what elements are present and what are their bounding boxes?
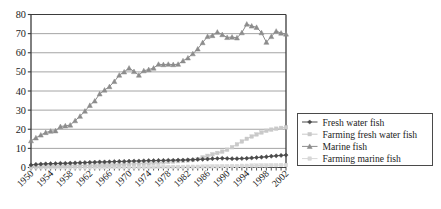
data-point-marker — [201, 165, 205, 169]
legend-label: Marine fish — [323, 141, 368, 152]
data-point-marker — [225, 148, 229, 152]
data-point-marker — [240, 164, 244, 168]
data-point-marker — [191, 165, 195, 169]
line-chart: 01020304050607080 1950195419581962196619… — [0, 0, 441, 209]
chart-legend: Fresh water fishFarming fresh water fish… — [298, 114, 433, 166]
data-point-marker — [206, 165, 210, 169]
data-point-marker — [235, 164, 239, 168]
data-point-marker — [196, 165, 200, 169]
data-point-marker — [250, 135, 254, 139]
y-axis-tick-label: 50 — [16, 66, 26, 77]
data-point-marker — [279, 163, 283, 167]
data-point-marker — [230, 145, 234, 149]
y-axis-tick-label: 10 — [16, 143, 26, 154]
data-point-marker — [181, 165, 185, 169]
data-point-marker — [255, 133, 259, 137]
y-axis-tick-label: 80 — [16, 9, 26, 20]
y-axis-tick-label: 30 — [16, 105, 26, 116]
data-point-marker — [137, 165, 141, 169]
data-point-marker — [167, 165, 171, 169]
data-point-marker — [220, 150, 224, 154]
data-point-marker — [220, 164, 224, 168]
data-point-marker — [255, 164, 259, 168]
data-point-marker — [157, 165, 161, 169]
y-axis-tick-label: 60 — [16, 47, 26, 58]
data-point-marker — [186, 165, 190, 169]
data-point-marker — [269, 128, 273, 132]
y-axis-tick-label: 70 — [16, 28, 26, 39]
y-axis-tick-label: 20 — [16, 124, 26, 135]
data-point-marker — [152, 165, 156, 169]
data-point-marker — [245, 164, 249, 168]
data-point-marker — [216, 165, 220, 169]
legend-label: Farming fresh water fish — [323, 129, 418, 140]
chart-container: 01020304050607080 1950195419581962196619… — [0, 0, 441, 209]
data-point-marker — [274, 127, 278, 131]
y-axis-tick-label: 40 — [16, 86, 26, 97]
data-point-marker — [284, 126, 288, 130]
legend-label: Farming marine fish — [323, 153, 402, 164]
data-point-marker — [176, 165, 180, 169]
data-point-marker — [265, 164, 269, 168]
data-point-marker — [274, 163, 278, 167]
data-point-marker — [245, 137, 249, 141]
data-point-marker — [308, 157, 312, 161]
data-point-marker — [269, 163, 273, 167]
data-point-marker — [284, 163, 288, 167]
y-axis-labels: 01020304050607080 — [16, 9, 26, 173]
data-point-marker — [250, 164, 254, 168]
data-point-marker — [142, 165, 146, 169]
data-point-marker — [265, 129, 269, 133]
data-point-marker — [225, 164, 229, 168]
data-point-marker — [308, 132, 312, 136]
data-point-marker — [211, 165, 215, 169]
data-point-marker — [279, 126, 283, 130]
legend-label: Fresh water fish — [323, 117, 385, 128]
data-point-marker — [216, 151, 220, 155]
data-point-marker — [235, 143, 239, 147]
data-point-marker — [147, 165, 151, 169]
data-point-marker — [211, 153, 215, 157]
data-point-marker — [260, 131, 264, 135]
data-point-marker — [240, 140, 244, 144]
data-point-marker — [260, 164, 264, 168]
data-point-marker — [162, 165, 166, 169]
data-point-marker — [230, 164, 234, 168]
data-point-marker — [171, 165, 175, 169]
